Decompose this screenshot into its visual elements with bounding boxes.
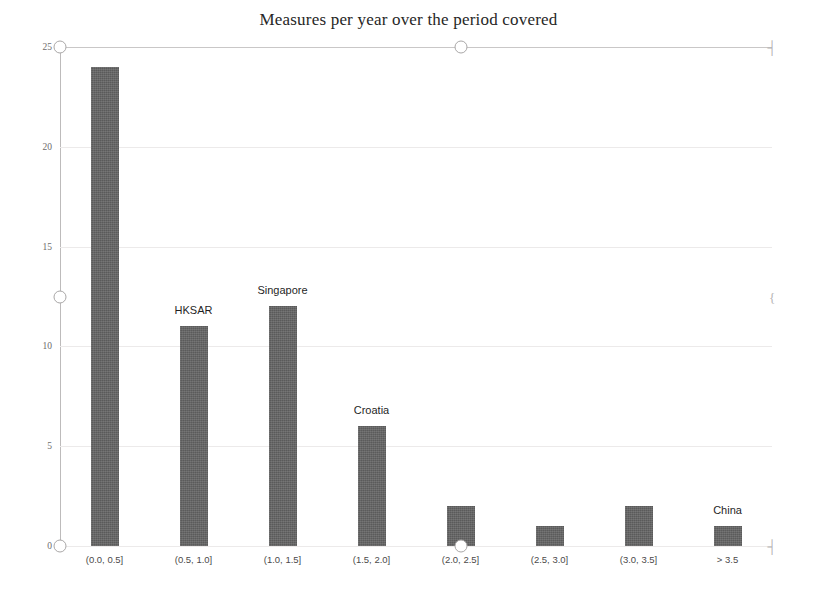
handle-bottom-center[interactable] [454,540,467,553]
bar-chart-figure: Measures per year over the period covere… [0,0,817,590]
y-axis-tick-label: 15 [12,242,52,252]
bar[interactable] [91,67,119,546]
bar-annotation-label: HKSAR [134,304,254,316]
gridline-y-5 [60,446,772,447]
x-axis-tick-label: > 3.5 [673,554,783,565]
handle-top-left[interactable] [54,41,67,54]
y-axis-tick-label: 0 [12,541,52,551]
bar[interactable] [536,526,564,546]
y-axis-tick-label: 25 [12,42,52,52]
edge-tick-bottom: ┤ [767,540,776,553]
bar[interactable] [714,526,742,546]
y-axis-tick-label: 5 [12,441,52,451]
handle-mid-left[interactable] [54,290,67,303]
gridline-y-0 [60,546,772,547]
gridline-y-15 [60,247,772,248]
bar[interactable] [269,306,297,546]
handle-top-center[interactable] [454,41,467,54]
bar[interactable] [180,326,208,546]
edge-tick-middle: { [769,290,775,303]
y-axis-tick-label: 20 [12,142,52,152]
edge-tick-top: ┤ [767,41,776,54]
bar-annotation-label: Singapore [223,284,343,296]
chart-title: Measures per year over the period covere… [0,10,817,30]
gridline-y-20 [60,147,772,148]
bar-annotation-label: Croatia [312,404,432,416]
handle-bottom-left[interactable] [54,540,67,553]
gridline-y-25 [60,47,772,48]
bar-annotation-label: China [668,504,788,516]
bar[interactable] [358,426,386,546]
y-axis-tick-label: 10 [12,341,52,351]
plot-area: 0510152025(0.0, 0.5](0.5, 1.0]HKSAR(1.0,… [60,47,772,546]
bar[interactable] [625,506,653,546]
gridline-y-10 [60,346,772,347]
